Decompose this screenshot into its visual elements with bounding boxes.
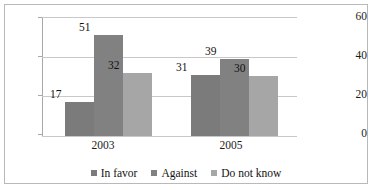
plot-area: 175132313930 [42, 17, 297, 136]
chart-frame: 60 40 20 0 175132313930 2003 2005 In fav… [4, 4, 368, 184]
bar-2005-in-favor [191, 75, 220, 136]
x-tick-label-2003: 2003 [63, 139, 143, 151]
gridline-0 [42, 136, 297, 137]
y-tick-label-40: 40 [339, 50, 367, 61]
chart-legend: In favor Against Do not know [5, 165, 367, 181]
data-label-2005-against: 39 [205, 46, 217, 57]
bar-2003-in-favor [65, 102, 94, 136]
y-tick-label-0: 0 [339, 128, 367, 139]
gridline-60 [42, 17, 297, 18]
legend-label-do-not-know: Do not know [221, 167, 281, 179]
y-tick-label-20: 20 [339, 89, 367, 100]
legend-label-in-favor: In favor [101, 167, 138, 179]
legend-swatch-icon-do-not-know [211, 170, 217, 176]
data-label-2003-do-not-know: 32 [108, 60, 120, 71]
bar-2003-against [94, 35, 123, 136]
bar-2005-do-not-know [249, 76, 278, 136]
legend-swatch-icon-against [151, 170, 157, 176]
legend-item-do-not-know: Do not know [211, 167, 281, 179]
legend-item-in-favor: In favor [91, 167, 138, 179]
legend-item-against: Against [151, 167, 197, 179]
y-tick-label-60: 60 [339, 11, 367, 22]
bar-2003-do-not-know [123, 73, 152, 136]
data-label-2005-do-not-know: 30 [234, 63, 246, 74]
data-label-2003-in-favor: 17 [50, 89, 62, 100]
data-label-2005-in-favor: 31 [176, 62, 188, 73]
x-tick-label-2005: 2005 [191, 139, 271, 151]
legend-label-against: Against [161, 167, 197, 179]
gridline-40 [42, 57, 297, 58]
data-label-2003-against: 51 [79, 22, 91, 33]
legend-swatch-icon-in-favor [91, 170, 97, 176]
